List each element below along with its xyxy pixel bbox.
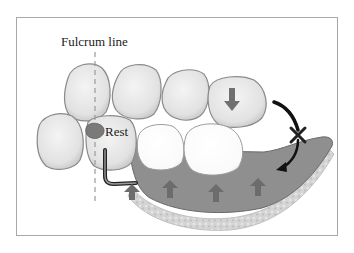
artificial-tooth-2	[184, 124, 243, 175]
denture-fulcrum-diagram	[0, 0, 354, 253]
tooth-upper-1	[65, 64, 111, 121]
rotation-arrow-upper	[274, 102, 298, 130]
rest	[86, 123, 104, 138]
tooth-upper-2	[112, 65, 161, 119]
tooth-upper-3	[162, 70, 209, 120]
fulcrum-line-label: Fulcrum line	[61, 34, 128, 50]
rest-label: Rest	[105, 124, 128, 140]
lower-natural-teeth	[37, 114, 136, 170]
tooth-lower-1	[37, 114, 83, 170]
artificial-teeth	[137, 124, 242, 175]
artificial-tooth-1	[137, 125, 184, 171]
